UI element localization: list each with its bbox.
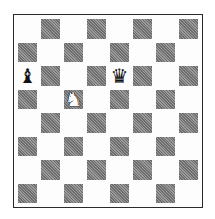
square-f3[interactable] [131, 135, 154, 159]
square-h8[interactable] [177, 17, 200, 41]
square-h4[interactable] [177, 111, 200, 135]
square-g6[interactable] [154, 64, 177, 88]
square-g5[interactable] [154, 88, 177, 112]
square-f6[interactable] [131, 64, 154, 88]
square-c2[interactable] [62, 158, 85, 182]
square-d2[interactable] [85, 158, 108, 182]
square-b1[interactable] [39, 182, 62, 206]
square-d1[interactable] [85, 182, 108, 206]
square-e8[interactable] [108, 17, 131, 41]
square-e5[interactable] [108, 88, 131, 112]
square-b6[interactable] [39, 64, 62, 88]
square-c4[interactable] [62, 111, 85, 135]
square-d5[interactable] [85, 88, 108, 112]
square-e6[interactable]: ♛ [108, 64, 131, 88]
square-a3[interactable] [16, 135, 39, 159]
square-a5[interactable] [16, 88, 39, 112]
square-f7[interactable] [131, 41, 154, 65]
white-knight-icon[interactable]: ♞ [65, 89, 83, 109]
square-g3[interactable] [154, 135, 177, 159]
square-h3[interactable] [177, 135, 200, 159]
square-h5[interactable] [177, 88, 200, 112]
square-c1[interactable] [62, 182, 85, 206]
square-e3[interactable] [108, 135, 131, 159]
square-e1[interactable] [108, 182, 131, 206]
square-b8[interactable] [39, 17, 62, 41]
square-g4[interactable] [154, 111, 177, 135]
square-e7[interactable] [108, 41, 131, 65]
square-a6[interactable]: ♝ [16, 64, 39, 88]
square-e4[interactable] [108, 111, 131, 135]
black-bishop-icon[interactable]: ♝ [19, 66, 37, 86]
square-d4[interactable] [85, 111, 108, 135]
square-h7[interactable] [177, 41, 200, 65]
square-b7[interactable] [39, 41, 62, 65]
square-c6[interactable] [62, 64, 85, 88]
square-a2[interactable] [16, 158, 39, 182]
square-h2[interactable] [177, 158, 200, 182]
square-d3[interactable] [85, 135, 108, 159]
square-c3[interactable] [62, 135, 85, 159]
chess-board[interactable]: ♝♛♞ [13, 14, 203, 208]
square-a4[interactable] [16, 111, 39, 135]
square-h6[interactable] [177, 64, 200, 88]
square-b2[interactable] [39, 158, 62, 182]
square-b3[interactable] [39, 135, 62, 159]
black-queen-icon[interactable]: ♛ [111, 66, 129, 86]
square-a7[interactable] [16, 41, 39, 65]
square-f2[interactable] [131, 158, 154, 182]
square-g7[interactable] [154, 41, 177, 65]
square-d7[interactable] [85, 41, 108, 65]
square-f5[interactable] [131, 88, 154, 112]
square-c7[interactable] [62, 41, 85, 65]
square-c8[interactable] [62, 17, 85, 41]
square-d6[interactable] [85, 64, 108, 88]
square-a8[interactable] [16, 17, 39, 41]
square-f1[interactable] [131, 182, 154, 206]
square-b5[interactable] [39, 88, 62, 112]
square-h1[interactable] [177, 182, 200, 206]
square-g2[interactable] [154, 158, 177, 182]
square-d8[interactable] [85, 17, 108, 41]
square-e2[interactable] [108, 158, 131, 182]
square-b4[interactable] [39, 111, 62, 135]
square-c5[interactable]: ♞ [62, 88, 85, 112]
square-g8[interactable] [154, 17, 177, 41]
square-f4[interactable] [131, 111, 154, 135]
square-g1[interactable] [154, 182, 177, 206]
square-a1[interactable] [16, 182, 39, 206]
square-f8[interactable] [131, 17, 154, 41]
